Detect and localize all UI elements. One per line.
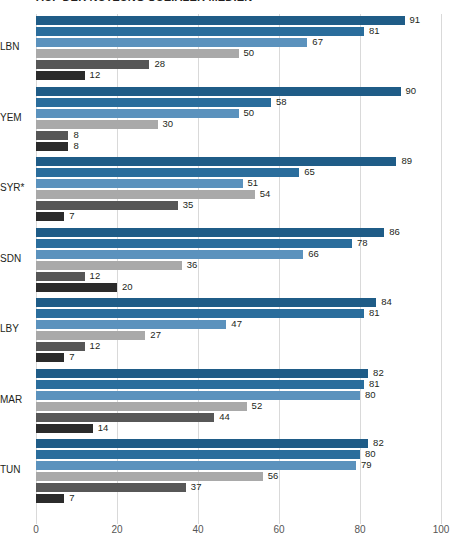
bar[interactable] xyxy=(36,342,85,351)
bar-group: 82807956377 xyxy=(36,439,441,505)
bar[interactable] xyxy=(36,472,263,481)
bar[interactable] xyxy=(36,239,352,248)
bar-row: 12 xyxy=(36,71,441,80)
bar-value-label: 86 xyxy=(389,226,400,237)
bar-value-label: 51 xyxy=(248,177,259,188)
bar[interactable] xyxy=(36,439,368,448)
x-tick-label-100: 100 xyxy=(433,524,450,535)
bar-row: 80 xyxy=(36,450,441,459)
x-tick-mark-80 xyxy=(360,516,361,524)
bar-row: 90 xyxy=(36,87,441,96)
bar-row: 67 xyxy=(36,38,441,47)
x-tick-label-40: 40 xyxy=(192,524,203,535)
x-axis: 020406080100 xyxy=(36,524,441,544)
bar[interactable] xyxy=(36,212,64,221)
bar-row: 79 xyxy=(36,461,441,470)
bar-row: 44 xyxy=(36,413,441,422)
bar[interactable] xyxy=(36,71,85,80)
bar[interactable] xyxy=(36,413,214,422)
bar[interactable] xyxy=(36,49,239,58)
bar-value-label: 80 xyxy=(365,389,376,400)
bar[interactable] xyxy=(36,190,255,199)
bar-value-label: 66 xyxy=(308,248,319,259)
bar-value-label: 30 xyxy=(163,118,174,129)
bar-value-label: 7 xyxy=(69,351,74,362)
bar-row: 89 xyxy=(36,157,441,166)
bar[interactable] xyxy=(36,272,85,281)
bar-row: 37 xyxy=(36,483,441,492)
bar-value-label: 78 xyxy=(357,237,368,248)
bar-group: 89655154357 xyxy=(36,157,441,223)
bar[interactable] xyxy=(36,16,405,25)
bar[interactable] xyxy=(36,98,271,107)
bar-value-label: 81 xyxy=(369,25,380,36)
bar-row: 56 xyxy=(36,472,441,481)
bar[interactable] xyxy=(36,353,64,362)
bar[interactable] xyxy=(36,168,299,177)
bar[interactable] xyxy=(36,283,117,292)
category-label-SYR: SYR* xyxy=(0,182,33,193)
bar[interactable] xyxy=(36,179,243,188)
bar-row: 7 xyxy=(36,494,441,503)
bar-value-label: 14 xyxy=(98,422,109,433)
bar[interactable] xyxy=(36,131,68,140)
bar-group: 867866361220 xyxy=(36,228,441,294)
bar-value-label: 90 xyxy=(406,85,417,96)
bar-row: 78 xyxy=(36,239,441,248)
bar[interactable] xyxy=(36,369,368,378)
bar[interactable] xyxy=(36,298,376,307)
bar[interactable] xyxy=(36,450,360,459)
bar-row: 51 xyxy=(36,179,441,188)
bar[interactable] xyxy=(36,109,239,118)
bar[interactable] xyxy=(36,391,360,400)
bar-row: 81 xyxy=(36,27,441,36)
bar[interactable] xyxy=(36,38,307,47)
bar-row: 80 xyxy=(36,391,441,400)
x-tick-label-60: 60 xyxy=(273,524,284,535)
bar[interactable] xyxy=(36,157,396,166)
bar-value-label: 28 xyxy=(154,58,165,69)
bar[interactable] xyxy=(36,201,178,210)
bar[interactable] xyxy=(36,424,93,433)
bar-row: 82 xyxy=(36,439,441,448)
bar[interactable] xyxy=(36,320,226,329)
bar-row: 14 xyxy=(36,424,441,433)
bar-value-label: 84 xyxy=(381,296,392,307)
bar-value-label: 12 xyxy=(90,340,101,351)
bar[interactable] xyxy=(36,250,303,259)
bar[interactable] xyxy=(36,60,149,69)
bar-value-label: 67 xyxy=(312,36,323,47)
bar[interactable] xyxy=(36,309,364,318)
bar-row: 86 xyxy=(36,228,441,237)
bar[interactable] xyxy=(36,228,384,237)
bar-value-label: 82 xyxy=(373,367,384,378)
x-tick-label-20: 20 xyxy=(111,524,122,535)
bar[interactable] xyxy=(36,494,64,503)
bar-group: 918167502812 xyxy=(36,16,441,82)
bar-row: 84 xyxy=(36,298,441,307)
bar-row: 81 xyxy=(36,309,441,318)
bar[interactable] xyxy=(36,461,356,470)
bar-value-label: 8 xyxy=(73,129,78,140)
bar[interactable] xyxy=(36,483,186,492)
bar[interactable] xyxy=(36,142,68,151)
bar[interactable] xyxy=(36,261,182,270)
bar-value-label: 54 xyxy=(260,188,271,199)
bar[interactable] xyxy=(36,402,247,411)
bar-row: 36 xyxy=(36,261,441,270)
bar-row: 58 xyxy=(36,98,441,107)
bar[interactable] xyxy=(36,380,364,389)
category-label-LBY: LBY xyxy=(0,323,33,334)
bar-value-label: 8 xyxy=(73,140,78,151)
bar-value-label: 58 xyxy=(276,96,287,107)
bar-value-label: 50 xyxy=(244,107,255,118)
bar[interactable] xyxy=(36,27,364,36)
bar-value-label: 79 xyxy=(361,459,372,470)
bar[interactable] xyxy=(36,331,145,340)
bar-row: 7 xyxy=(36,212,441,221)
bar-row: 8 xyxy=(36,142,441,151)
bar[interactable] xyxy=(36,87,401,96)
bar-value-label: 82 xyxy=(373,437,384,448)
bar-value-label: 44 xyxy=(219,411,230,422)
bar[interactable] xyxy=(36,120,158,129)
